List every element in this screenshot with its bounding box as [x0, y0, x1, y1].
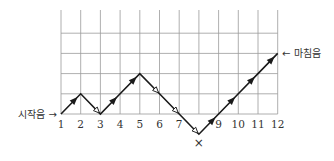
- x-tick-label: 2: [77, 118, 84, 130]
- x-axis-ticks: 12345679101112: [58, 118, 285, 130]
- start-label: 시작음 →: [18, 109, 57, 120]
- x-tick-label: 1: [58, 118, 65, 130]
- x-tick-label: 12: [271, 118, 284, 130]
- x-tick-label: 5: [136, 118, 143, 130]
- x-tick-label: 6: [156, 118, 163, 130]
- cross-marker: ×: [194, 136, 204, 150]
- end-label: ← 마침음: [282, 48, 321, 59]
- x-tick-label: 11: [251, 118, 264, 130]
- x-tick-label: 7: [176, 118, 183, 130]
- contour-diagram: 12345679101112 시작음 → ← 마침음 ×: [0, 0, 334, 161]
- x-tick-label: 3: [97, 118, 104, 130]
- x-tick-label: 9: [215, 118, 222, 130]
- grid: [61, 10, 278, 114]
- x-tick-label: 4: [117, 118, 124, 130]
- x-tick-label: 10: [232, 118, 245, 130]
